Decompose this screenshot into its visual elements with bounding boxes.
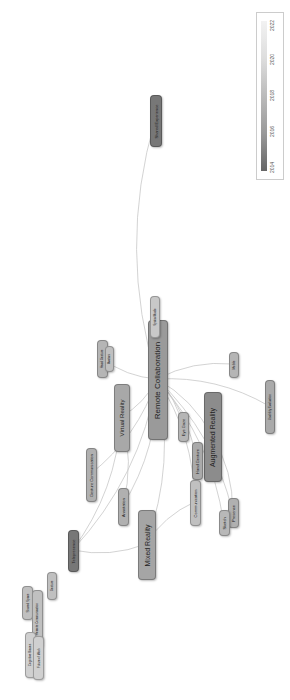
- node-virtual-reality[interactable]: Virtual Reality: [114, 384, 130, 452]
- node-label: Future of Work: [37, 648, 41, 668]
- node-label: Telepresence: [71, 539, 76, 563]
- node-label: Avatars: [108, 354, 112, 364]
- node-label: Gesture Communication: [89, 453, 94, 496]
- node-label: Remote Communication: [36, 603, 40, 635]
- node-label: Augmented Reality: [210, 407, 217, 466]
- legend-tick: 2020: [269, 54, 275, 65]
- node-label: Virtual Reality: [119, 400, 125, 437]
- node-communication[interactable]: Communication: [190, 480, 201, 526]
- node-label: Sketch: [222, 517, 227, 529]
- node-annotation[interactable]: Annotation: [118, 488, 129, 526]
- node-remote-collab[interactable]: Remote Collaboration: [148, 320, 168, 440]
- node-shared-experience[interactable]: Shared Experience: [150, 95, 162, 147]
- legend-tick: 2018: [269, 90, 275, 101]
- node-label: Remote Collaboration: [154, 341, 163, 418]
- legend-tick: 2016: [269, 126, 275, 137]
- node-label: Eye Gaze: [181, 418, 186, 436]
- color-scale-bar: [261, 21, 267, 171]
- node-label: Cognitive Biases: [29, 644, 33, 666]
- node-mobile[interactable]: Mobile: [229, 352, 239, 378]
- node-label: Head Gesture: [101, 350, 105, 369]
- legend-tick: 2014: [269, 162, 275, 173]
- node-label: Mobile: [232, 361, 236, 370]
- node-spatial-audio[interactable]: Spatial Audio: [150, 296, 160, 338]
- legend-tick: 2022: [269, 20, 275, 31]
- node-hand-gesture[interactable]: Hand Gesture: [192, 442, 203, 480]
- year-legend: 2014 2016 2018 2020 2022: [256, 12, 284, 180]
- edge: [157, 363, 233, 379]
- node-label: Mixed Reality: [144, 524, 151, 566]
- node-usability[interactable]: Usability Evaluation: [265, 380, 275, 434]
- node-gesture-comm[interactable]: Gesture Communication: [86, 448, 97, 502]
- node-avatars[interactable]: Avatars: [105, 346, 114, 372]
- node-label: Usability Evaluation: [268, 394, 272, 420]
- node-label: Communication: [193, 489, 198, 517]
- node-future[interactable]: Future of Work: [33, 636, 44, 680]
- node-label: Annotation: [121, 497, 126, 516]
- node-label: Hand Gesture: [195, 449, 200, 474]
- edge: [73, 544, 147, 553]
- node-telepresence[interactable]: Telepresence: [68, 530, 79, 572]
- node-sketch[interactable]: Sketch: [219, 510, 230, 536]
- node-label: Gesture: [50, 581, 54, 592]
- node-augmented-reality[interactable]: Augmented Reality: [204, 392, 222, 482]
- node-mixed-reality[interactable]: Mixed Reality: [138, 510, 156, 580]
- node-label: Shared Space: [26, 593, 30, 612]
- node-label: Shared Experience: [154, 104, 159, 138]
- network-edges: [0, 0, 290, 700]
- node-eye-gaze[interactable]: Eye Gaze: [178, 412, 189, 442]
- node-label: Spatial Audio: [153, 308, 157, 326]
- node-gesture-small[interactable]: Gesture: [47, 572, 57, 600]
- node-label: Presence: [231, 505, 236, 522]
